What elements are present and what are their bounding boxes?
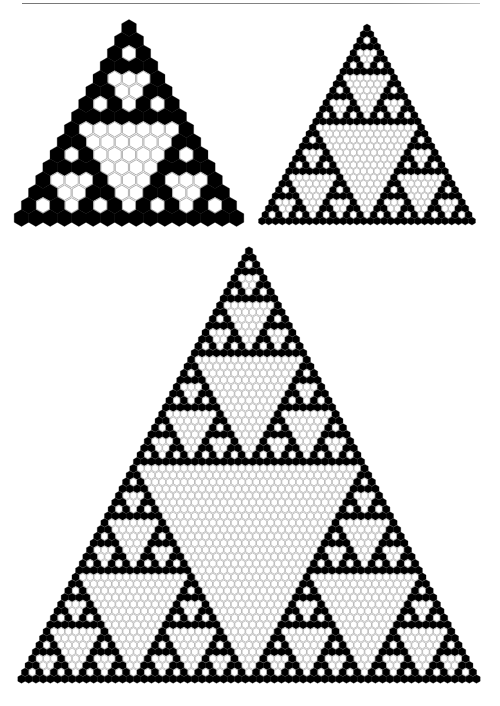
even-cell — [242, 512, 249, 520]
even-cell — [127, 594, 134, 602]
even-cell — [51, 628, 58, 636]
even-cell — [397, 628, 404, 636]
even-cell — [213, 363, 220, 371]
even-cell — [195, 560, 202, 568]
even-cell — [426, 655, 433, 663]
even-cell — [361, 505, 368, 513]
even-cell — [285, 499, 292, 507]
even-cell — [112, 634, 119, 642]
even-cell — [260, 369, 267, 377]
even-cell — [159, 424, 166, 432]
even-cell — [188, 641, 195, 649]
even-cell — [347, 505, 354, 513]
even-cell — [220, 390, 227, 398]
even-cell — [217, 614, 224, 622]
even-cell — [365, 526, 372, 534]
even-cell — [282, 628, 289, 636]
even-cell — [224, 533, 231, 541]
even-cell — [358, 539, 365, 547]
even-cell — [347, 668, 354, 676]
even-cell — [379, 526, 386, 534]
even-cell — [72, 655, 79, 663]
even-cell — [235, 526, 242, 534]
even-cell — [116, 600, 123, 608]
even-cell — [275, 342, 282, 350]
even-cell — [249, 431, 256, 439]
even-cell — [220, 662, 227, 670]
even-cell — [285, 471, 292, 479]
even-cell — [376, 519, 383, 527]
even-cell — [307, 553, 314, 561]
even-cell — [383, 628, 390, 636]
even-cell — [350, 634, 357, 642]
even-cell — [257, 553, 264, 561]
even-cell — [376, 628, 383, 636]
even-cell — [231, 356, 238, 364]
even-cell — [116, 573, 123, 581]
even-cell — [260, 505, 267, 513]
even-cell — [322, 417, 329, 425]
even-cell — [296, 519, 303, 527]
even-cell — [332, 478, 339, 486]
even-cell — [419, 587, 426, 595]
even-cell — [289, 465, 296, 473]
even-cell — [293, 566, 300, 574]
even-cell — [303, 655, 310, 663]
even-cell — [372, 539, 379, 547]
even-cell — [228, 580, 235, 588]
even-cell — [296, 505, 303, 513]
even-cell — [383, 614, 390, 622]
even-cell — [314, 471, 321, 479]
even-cell — [278, 335, 285, 343]
even-cell — [332, 587, 339, 595]
even-cell — [145, 465, 152, 473]
even-cell — [108, 573, 115, 581]
even-cell — [300, 444, 307, 452]
even-cell — [267, 505, 274, 513]
even-cell — [293, 580, 300, 588]
even-cell — [192, 485, 199, 493]
even-cell — [347, 641, 354, 649]
even-cell — [145, 519, 152, 527]
even-cell — [43, 668, 50, 676]
even-cell — [228, 499, 235, 507]
even-cell — [145, 533, 152, 541]
even-cell — [181, 519, 188, 527]
even-cell — [159, 668, 166, 676]
even-cell — [311, 533, 318, 541]
even-cell — [220, 376, 227, 384]
even-cell — [145, 505, 152, 513]
even-cell — [253, 655, 260, 663]
even-cell — [206, 539, 213, 547]
even-cell — [210, 478, 217, 486]
even-cell — [322, 499, 329, 507]
even-cell — [87, 628, 94, 636]
even-cell — [145, 573, 152, 581]
even-cell — [72, 628, 79, 636]
even-cell — [69, 648, 76, 656]
even-cell — [210, 329, 217, 337]
even-cell — [311, 478, 318, 486]
even-cell — [224, 614, 231, 622]
even-cell — [332, 424, 339, 432]
even-cell — [307, 634, 314, 642]
even-cell — [336, 444, 343, 452]
even-cell — [329, 485, 336, 493]
even-cell — [365, 499, 372, 507]
even-cell — [130, 668, 137, 676]
even-cell — [318, 628, 325, 636]
even-cell — [43, 655, 50, 663]
even-cell — [325, 410, 332, 418]
even-cell — [296, 424, 303, 432]
even-cell — [285, 485, 292, 493]
even-cell — [87, 573, 94, 581]
even-cell — [181, 655, 188, 663]
even-cell — [260, 546, 267, 554]
even-cell — [101, 655, 108, 663]
even-cell — [238, 600, 245, 608]
even-cell — [249, 566, 256, 574]
even-cell — [177, 512, 184, 520]
even-cell — [206, 485, 213, 493]
even-cell — [372, 594, 379, 602]
even-cell — [130, 478, 137, 486]
